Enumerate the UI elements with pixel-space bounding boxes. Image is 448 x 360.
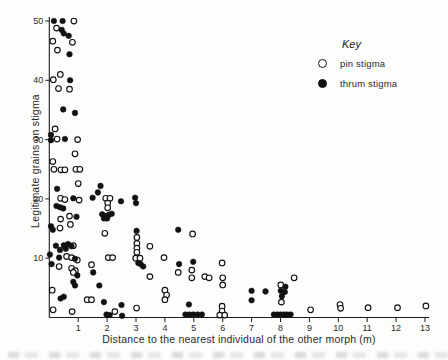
x-tick-label: 4	[162, 323, 167, 333]
x-axis-title: Distance to the nearest individual of th…	[30, 333, 448, 345]
y-axis-title: Legitimate grains on stigma	[29, 81, 41, 241]
data-point-thrum	[53, 243, 59, 249]
data-point-thrum	[74, 214, 80, 220]
data-point-pin	[69, 309, 75, 315]
data-point-pin	[56, 264, 62, 270]
data-point-pin	[423, 303, 429, 309]
data-point-thrum	[175, 227, 181, 233]
data-point-thrum	[51, 18, 57, 24]
data-point-pin	[55, 47, 61, 53]
data-point-pin	[222, 312, 228, 318]
data-point-pin	[50, 159, 56, 165]
figure-page: 123456789101112131020304050 Legitimate g…	[0, 0, 448, 360]
data-point-pin	[89, 297, 95, 303]
data-point-pin	[147, 274, 153, 280]
data-point-pin	[365, 305, 371, 311]
x-tick-label: 9	[307, 323, 312, 333]
data-point-pin	[279, 299, 285, 305]
data-point-thrum	[48, 132, 54, 138]
data-point-pin	[68, 222, 74, 228]
data-point-thrum	[50, 227, 56, 233]
data-point-pin	[89, 262, 95, 268]
data-point-thrum	[63, 246, 69, 252]
data-point-thrum	[90, 270, 96, 276]
thrum-stigma-marker-icon	[318, 79, 327, 88]
legend-title: Key	[342, 38, 428, 50]
data-point-thrum	[60, 206, 66, 212]
data-point-pin	[57, 225, 63, 231]
data-point-thrum	[101, 299, 107, 305]
data-point-thrum	[249, 288, 255, 294]
data-point-pin	[75, 181, 81, 187]
data-point-thrum	[199, 312, 205, 318]
data-point-thrum	[119, 302, 125, 308]
data-point-pin	[162, 297, 168, 303]
data-point-thrum	[71, 196, 77, 202]
data-point-pin	[75, 137, 81, 143]
data-point-pin	[189, 267, 195, 273]
data-point-thrum	[132, 195, 138, 201]
data-point-thrum	[190, 259, 196, 265]
data-point-pin	[161, 255, 167, 261]
y-tick-label: 50	[33, 16, 43, 26]
data-point-pin	[291, 275, 297, 281]
data-point-thrum	[104, 216, 110, 222]
data-point-pin	[71, 18, 77, 24]
data-point-pin	[190, 231, 196, 237]
data-point-pin	[51, 167, 57, 173]
data-point-pin	[67, 86, 73, 92]
data-point-thrum	[66, 33, 72, 39]
data-point-pin	[147, 244, 153, 250]
x-tick-label: 3	[133, 323, 138, 333]
data-point-pin	[54, 25, 60, 31]
data-point-pin	[67, 213, 73, 219]
x-tick-label: 8	[278, 323, 283, 333]
legend: Key pin stigma thrum stigma	[318, 38, 428, 98]
data-point-thrum	[72, 283, 78, 289]
data-point-thrum	[48, 137, 54, 143]
data-point-pin	[189, 275, 195, 281]
data-point-thrum	[72, 110, 78, 116]
data-point-thrum	[69, 244, 75, 250]
data-point-pin	[72, 151, 78, 157]
data-point-thrum	[186, 302, 192, 308]
x-tick-label: 12	[391, 323, 401, 333]
data-point-thrum	[288, 312, 294, 318]
data-point-pin	[110, 255, 116, 261]
data-point-thrum	[90, 195, 96, 201]
data-point-pin	[102, 231, 108, 237]
data-point-pin	[77, 167, 83, 173]
data-point-pin	[219, 260, 225, 266]
data-point-pin	[50, 307, 56, 313]
data-point-pin	[58, 72, 64, 78]
legend-item-label: thrum stigma	[340, 78, 397, 89]
data-point-pin	[58, 216, 64, 222]
data-point-pin	[134, 235, 140, 241]
data-point-thrum	[60, 18, 66, 24]
data-point-thrum	[279, 293, 285, 299]
data-point-pin	[134, 250, 140, 256]
data-point-pin	[54, 136, 60, 142]
x-tick-label: 6	[220, 323, 225, 333]
data-point-pin	[308, 307, 314, 313]
x-tick-label: 11	[363, 323, 372, 333]
data-point-thrum	[60, 107, 66, 113]
data-point-pin	[220, 282, 226, 288]
legend-item-thrum: thrum stigma	[318, 78, 428, 89]
y-tick-label: 10	[33, 253, 43, 263]
data-point-pin	[220, 275, 226, 281]
x-tick-label: 13	[420, 323, 430, 333]
data-point-thrum	[249, 298, 255, 304]
page-bleed-through-text	[8, 352, 448, 358]
data-point-thrum	[95, 190, 101, 196]
data-point-thrum	[97, 283, 103, 289]
data-point-thrum	[56, 255, 62, 261]
legend-item-label: pin stigma	[340, 58, 385, 69]
data-point-pin	[50, 38, 56, 44]
data-point-pin	[70, 40, 76, 46]
data-point-pin	[134, 305, 140, 311]
data-point-pin	[56, 86, 62, 92]
data-point-pin	[112, 309, 118, 315]
data-point-thrum	[283, 284, 289, 290]
data-point-pin	[76, 197, 82, 203]
